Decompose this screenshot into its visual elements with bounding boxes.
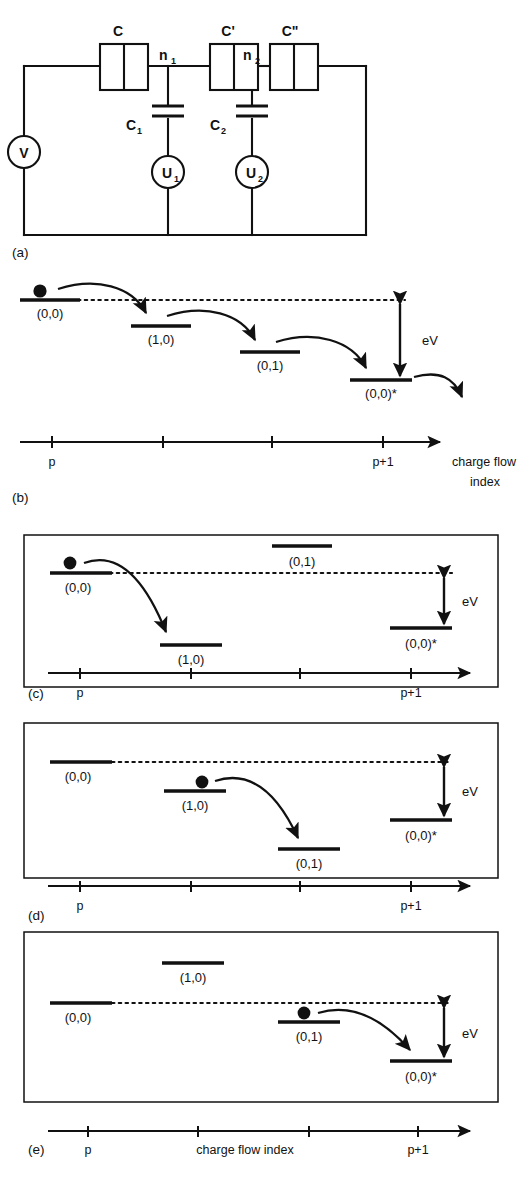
junction-Cp-label: C' xyxy=(221,23,234,39)
level-label-01-b: (0,1) xyxy=(257,358,284,373)
capacitor-C2-text: C xyxy=(210,117,220,133)
panel-e-tag: (e) xyxy=(28,1142,45,1157)
voltage-sources xyxy=(8,136,268,188)
electron-dot-e xyxy=(298,1007,311,1020)
node-n1-sub: 1 xyxy=(171,56,176,66)
node-n2-sub: 2 xyxy=(255,56,260,66)
level-label-10-c: (1,0) xyxy=(178,652,205,667)
panel-e-diagram: eV (0,0) (1,0) (0,1) (0,0)* p p+1 charge… xyxy=(24,932,498,1157)
level-label-00star-e: (0,0)* xyxy=(405,1069,437,1084)
source-V-label: V xyxy=(19,145,29,161)
electron-dot-b xyxy=(33,284,46,297)
tunnel-arrow-c-1 xyxy=(84,560,166,632)
axis-title-line1-b: charge flow xyxy=(452,455,517,469)
source-U2-sub: 2 xyxy=(258,174,263,184)
axis-title-line2-b: index xyxy=(470,475,501,489)
panel-c-tag: (c) xyxy=(28,686,44,701)
level-label-00star-b: (0,0)* xyxy=(365,386,397,401)
axis-tick-label-p1-c: p+1 xyxy=(400,686,421,700)
ev-label-d: eV xyxy=(462,784,478,799)
tunnel-arrow-e-1 xyxy=(318,1010,410,1050)
junction-Cpp-label: C" xyxy=(282,23,299,39)
source-U1-sub: 1 xyxy=(174,174,179,184)
energy-levels-e xyxy=(50,963,452,1061)
capacitor-C1-text: C xyxy=(126,117,136,133)
axis-tick-label-p1-d: p+1 xyxy=(400,899,421,913)
level-label-00-e: (0,0) xyxy=(65,1010,92,1025)
level-label-00star-c: (0,0)* xyxy=(405,636,437,651)
electron-dot-c xyxy=(64,557,77,570)
axis-e: p p+1 charge flow index xyxy=(48,1126,470,1157)
capacitor-C1-sub: 1 xyxy=(137,126,142,136)
capacitor-C2-label: C 2 xyxy=(210,117,226,136)
axis-tick-label-p-d: p xyxy=(77,899,84,913)
capacitor-C1 xyxy=(152,106,184,116)
node-n1-text: n xyxy=(159,47,168,63)
energy-levels-d xyxy=(50,762,452,849)
tunnel-junctions xyxy=(100,44,318,90)
source-U1-text: U xyxy=(162,165,172,181)
capacitor-C2-sub: 2 xyxy=(221,126,226,136)
level-label-00-b: (0,0) xyxy=(37,306,64,321)
panel-c-border xyxy=(24,535,498,687)
level-label-10-e: (1,0) xyxy=(180,970,207,985)
axis-title-e: charge flow index xyxy=(196,1143,294,1157)
tunnel-arrow-b-4 xyxy=(414,374,462,397)
source-U2-text: U xyxy=(246,165,256,181)
panel-c-diagram: eV (0,0) (1,0) (0,1) (0,0)* p p+1 (c) xyxy=(24,535,498,701)
panel-d-diagram: eV (0,0) (1,0) (0,1) (0,0)* p p+1 (d) xyxy=(24,723,498,923)
axis-tick-label-p1-e: p+1 xyxy=(407,1143,428,1157)
axis-tick-label-p-c: p xyxy=(77,686,84,700)
figure-root: C C' C" n 1 n 2 C 1 C 2 V U 1 U 2 xyxy=(0,0,525,1187)
ev-label-e: eV xyxy=(462,1026,478,1041)
ev-label-c: eV xyxy=(462,594,478,609)
junction-C xyxy=(100,44,148,90)
node-n1-label: n 1 xyxy=(159,47,176,66)
panel-d-tag: (d) xyxy=(28,908,45,923)
panel-a-tag: (a) xyxy=(12,245,29,260)
gate-capacitors xyxy=(152,106,268,116)
panel-a-circuit: C C' C" n 1 n 2 C 1 C 2 V U 1 U 2 xyxy=(8,23,366,260)
junction-Cpp xyxy=(270,44,318,90)
level-label-01-c: (0,1) xyxy=(289,554,316,569)
panel-b-tag: (b) xyxy=(12,490,29,505)
capacitor-C2 xyxy=(236,106,268,116)
circuit-wires xyxy=(24,66,366,235)
axis-tick-label-p-e: p xyxy=(85,1143,92,1157)
level-label-00-d: (0,0) xyxy=(65,769,92,784)
panel-d-border xyxy=(24,723,498,878)
electron-dot-d xyxy=(196,776,209,789)
tunnel-arrow-d-1 xyxy=(215,778,298,838)
ev-label-b: eV xyxy=(422,333,438,348)
axis-b: p p+1 charge flow index xyxy=(20,436,517,489)
axis-c: p p+1 xyxy=(48,668,470,700)
level-label-01-d: (0,1) xyxy=(296,856,323,871)
node-n2-text: n xyxy=(243,47,252,63)
level-label-00star-d: (0,0)* xyxy=(405,828,437,843)
level-label-10-d: (1,0) xyxy=(182,798,209,813)
panel-b-diagram: eV (0,0) (1,0) (0,1) (0,0)* p p+1 charge… xyxy=(12,284,517,505)
axis-tick-label-p1-b: p+1 xyxy=(372,455,393,469)
junction-C-label: C xyxy=(113,23,123,39)
level-label-00-c: (0,0) xyxy=(65,580,92,595)
axis-d: p p+1 xyxy=(48,881,470,913)
level-label-01-e: (0,1) xyxy=(296,1029,323,1044)
level-label-10-b: (1,0) xyxy=(148,332,175,347)
capacitor-C1-label: C 1 xyxy=(126,117,142,136)
axis-tick-label-p-b: p xyxy=(49,455,56,469)
